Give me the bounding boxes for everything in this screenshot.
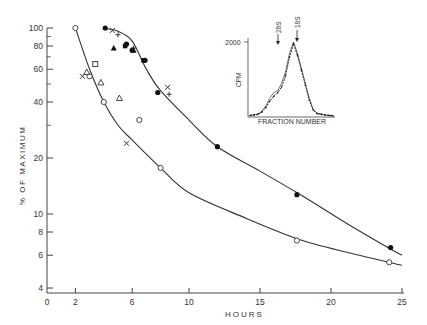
cross-point bbox=[124, 141, 129, 146]
marker-18s-label: 18S bbox=[294, 16, 301, 28]
y-ticks: 4681020406080100 bbox=[29, 23, 53, 293]
inset-point bbox=[328, 115, 330, 117]
inset-point bbox=[324, 114, 326, 116]
y-axis-label: % OF MAXIMUM bbox=[18, 126, 27, 205]
inset-point bbox=[289, 56, 291, 58]
inset-point bbox=[249, 115, 251, 117]
y-tick-label: 60 bbox=[34, 64, 44, 74]
arrow-down-icon bbox=[295, 38, 299, 42]
open-square-point bbox=[93, 62, 98, 67]
y-tick-label: 20 bbox=[34, 153, 44, 163]
x-tick-label: 2 bbox=[73, 297, 78, 307]
inset-point bbox=[277, 92, 279, 94]
inset-point bbox=[305, 84, 307, 86]
x-ticks: 02610152025 bbox=[45, 288, 407, 307]
filled-circle-point bbox=[388, 245, 393, 250]
inset-point bbox=[312, 109, 314, 111]
data-points bbox=[73, 25, 393, 264]
filled-circle-point bbox=[103, 25, 108, 30]
y-tick-label: 8 bbox=[38, 227, 43, 237]
open-circle-point bbox=[294, 238, 299, 243]
inset-point bbox=[316, 113, 318, 115]
inset-point bbox=[332, 115, 334, 117]
y-tick-label: 4 bbox=[38, 283, 43, 293]
filled-circle-point bbox=[155, 90, 160, 95]
inset-point bbox=[257, 114, 259, 116]
inset-point bbox=[293, 43, 295, 45]
inset-point bbox=[320, 114, 322, 116]
filled-triangle-point bbox=[111, 45, 117, 51]
inset-point bbox=[301, 69, 303, 71]
open-triangle-point bbox=[84, 69, 90, 75]
y-tick-label: 6 bbox=[38, 250, 43, 260]
inset-point bbox=[269, 100, 271, 102]
cross-point bbox=[165, 85, 170, 90]
chart-canvas: 4681020406080100 02610152025 HOURS % OF … bbox=[0, 0, 427, 325]
fit-curves bbox=[75, 28, 402, 265]
marker-28s: 28S bbox=[275, 21, 282, 45]
open-circle-point bbox=[137, 117, 142, 122]
inset-x-label: FRACTION NUMBER bbox=[258, 118, 326, 125]
inset-profile-line bbox=[250, 42, 333, 116]
plus-point bbox=[116, 32, 121, 37]
filled-square-point bbox=[123, 44, 128, 49]
open-circle-point bbox=[158, 165, 163, 170]
y-tick-label: 10 bbox=[34, 209, 44, 219]
inset-point bbox=[297, 54, 299, 56]
x-tick-label: 15 bbox=[255, 297, 265, 307]
inset-point bbox=[261, 111, 263, 113]
inset-y-label: CPM bbox=[235, 73, 242, 87]
marker-28s-label: 28S bbox=[275, 21, 282, 33]
filled-square-point bbox=[141, 58, 146, 63]
inset-chart: 2000 CPM FRACTION NUMBER 28S 18S bbox=[225, 16, 335, 125]
x-tick-label: 0 bbox=[45, 297, 50, 307]
open-triangle-point bbox=[98, 79, 104, 85]
x-tick-label: 6 bbox=[130, 297, 135, 307]
inset-profiles bbox=[249, 42, 334, 117]
filled-circle-point bbox=[215, 144, 220, 149]
inset-point bbox=[253, 114, 255, 116]
plus-point bbox=[167, 92, 172, 97]
open-triangle-point bbox=[116, 95, 122, 101]
open-circle-point bbox=[387, 260, 392, 265]
inset-point bbox=[308, 99, 310, 101]
arrow-down-icon bbox=[276, 41, 280, 45]
y-tick-label: 100 bbox=[29, 23, 43, 33]
x-tick-label: 25 bbox=[397, 297, 407, 307]
marker-18s: 18S bbox=[294, 16, 301, 42]
y-tick-label: 40 bbox=[34, 97, 44, 107]
filled-circle-point bbox=[294, 192, 299, 197]
inset-profile-line bbox=[250, 44, 333, 116]
open-circle-point bbox=[101, 99, 106, 104]
x-tick-label: 20 bbox=[326, 297, 336, 307]
fit-curve bbox=[75, 28, 402, 265]
x-tick-label: 10 bbox=[184, 297, 194, 307]
x-axis-label: HOURS bbox=[225, 310, 264, 319]
inset-point bbox=[273, 96, 275, 98]
inset-point bbox=[281, 86, 283, 88]
open-circle-point bbox=[73, 25, 78, 30]
inset-y-tick-label: 2000 bbox=[225, 39, 241, 46]
y-tick-label: 80 bbox=[34, 41, 44, 51]
inset-point bbox=[285, 75, 287, 77]
inset-point bbox=[265, 107, 267, 109]
